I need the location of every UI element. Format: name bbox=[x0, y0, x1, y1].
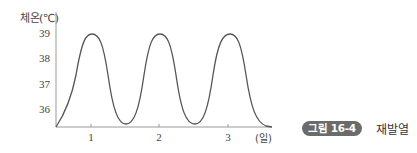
x-tick-2: 2 bbox=[156, 131, 162, 143]
figure-title: 재발열 bbox=[376, 120, 409, 137]
x-axis-unit: (일) bbox=[255, 130, 272, 145]
figure-label-badge: 그림 16-4 bbox=[302, 121, 362, 136]
x-tick-3: 3 bbox=[225, 131, 231, 143]
temperature-curve bbox=[56, 34, 272, 127]
figure-caption: 그림 16-4 재발열 bbox=[302, 120, 409, 137]
fever-chart: 체온(℃) 39 38 37 36 1 2 3 (일) 그림 16-4 재발열 bbox=[0, 0, 417, 153]
x-tick-1: 1 bbox=[88, 131, 94, 143]
